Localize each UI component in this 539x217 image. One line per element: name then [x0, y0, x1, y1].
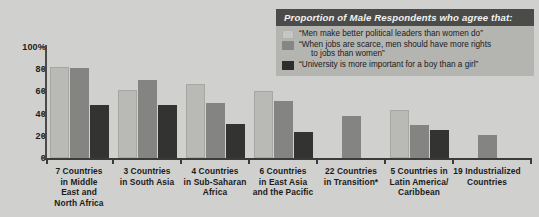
- bar[interactable]: [90, 105, 109, 158]
- x-axis-tick-mark: [46, 160, 48, 164]
- category-label-line: 3 Countries: [109, 166, 185, 177]
- category-label-line: Caribbean: [381, 187, 457, 198]
- legend-item[interactable]: “Men make better political leaders than …: [282, 29, 528, 39]
- x-axis-line: [45, 158, 532, 160]
- category-label-line: North Africa: [41, 198, 117, 209]
- legend-title: Proportion of Male Respondents who agree…: [284, 12, 527, 23]
- legend-label: “When jobs are scarce, men should have m…: [299, 40, 491, 59]
- bar[interactable]: [138, 80, 157, 158]
- bar[interactable]: [274, 101, 293, 158]
- category-label-line: 22 Countries: [313, 166, 389, 177]
- bar[interactable]: [70, 68, 89, 158]
- category-label: 7 Countriesin MiddleEast andNorth Africa: [41, 166, 117, 208]
- category-label: 19 IndustrializedCountries: [449, 166, 525, 187]
- category-label: 4 Countriesin Sub-SaharanAfrica: [177, 166, 253, 198]
- category-label: 6 Countriesin East Asiaand the Pacific: [245, 166, 321, 198]
- legend-item[interactable]: “When jobs are scarce, men should have m…: [282, 40, 528, 59]
- category-label-line: in Transition*: [313, 177, 389, 188]
- legend-title-bar: Proportion of Male Respondents who agree…: [276, 9, 534, 26]
- legend-label: “University is more important for a boy …: [299, 60, 478, 69]
- chart-container: 100%806040200 7 Countriesin MiddleEast a…: [0, 0, 539, 217]
- bar[interactable]: [158, 105, 177, 158]
- category-label-line: in South Asia: [109, 177, 185, 188]
- category-label-line: Countries: [449, 177, 525, 188]
- category-label: 5 Countries inLatin America/Caribbean: [381, 166, 457, 198]
- x-axis-tick-mark: [112, 160, 114, 164]
- legend-items: “Men make better political leaders than …: [276, 26, 534, 76]
- category-label-line: 19 Industrialized: [449, 166, 525, 177]
- category-label-line: 6 Countries: [245, 166, 321, 177]
- legend-item[interactable]: “University is more important for a boy …: [282, 60, 528, 70]
- x-axis-tick-mark: [316, 160, 318, 164]
- category-label-line: 7 Countries: [41, 166, 117, 177]
- category-label-line: in Middle: [41, 177, 117, 188]
- bar[interactable]: [226, 124, 245, 158]
- bar-group: [50, 47, 109, 158]
- bar[interactable]: [410, 125, 429, 158]
- category-label-line: 5 Countries in: [381, 166, 457, 177]
- bar[interactable]: [254, 91, 273, 158]
- legend-swatch: [282, 41, 294, 50]
- bar[interactable]: [50, 67, 69, 158]
- bar[interactable]: [430, 130, 449, 158]
- legend-swatch: [282, 30, 294, 39]
- chart-legend: Proportion of Male Respondents who agree…: [276, 9, 534, 76]
- x-axis-tick-mark: [452, 160, 454, 164]
- category-label-line: Latin America/: [381, 177, 457, 188]
- x-axis-tick-mark: [180, 160, 182, 164]
- category-label-line: 4 Countries: [177, 166, 253, 177]
- category-label-line: in East Asia: [245, 177, 321, 188]
- legend-label-continuation: to jobs than women”: [299, 49, 491, 58]
- x-axis-tick-mark: [248, 160, 250, 164]
- bar[interactable]: [478, 135, 497, 158]
- category-label-line: in Sub-Saharan: [177, 177, 253, 188]
- bar[interactable]: [118, 90, 137, 158]
- bar[interactable]: [390, 110, 409, 158]
- category-label: 22 Countriesin Transition*: [313, 166, 389, 187]
- category-label: 3 Countriesin South Asia: [109, 166, 185, 187]
- x-axis-tick-mark: [384, 160, 386, 164]
- bar[interactable]: [342, 116, 361, 158]
- category-label-line: East and: [41, 187, 117, 198]
- bar[interactable]: [186, 84, 205, 158]
- category-label-line: and the Pacific: [245, 187, 321, 198]
- bar[interactable]: [206, 103, 225, 159]
- legend-label: “Men make better political leaders than …: [299, 29, 483, 38]
- x-axis-tick-mark: [530, 160, 532, 164]
- category-label-line: Africa: [177, 187, 253, 198]
- bar-group: [186, 47, 245, 158]
- legend-swatch: [282, 61, 294, 70]
- bar-group: [118, 47, 177, 158]
- bar[interactable]: [294, 132, 313, 158]
